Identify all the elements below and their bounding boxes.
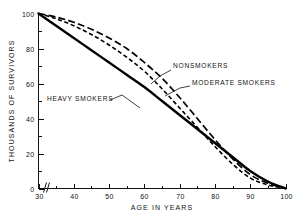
y-tick-label: 80 — [26, 46, 34, 53]
x-axis-ticks — [40, 184, 287, 189]
y-axis-title: THOUSANDS OF SURVIVORS — [8, 40, 15, 163]
y-tick-label: 60 — [26, 81, 34, 88]
x-tick-label: 100 — [280, 193, 293, 200]
survivorship-chart: 020406080100 30405060708090100 AGE IN YE… — [0, 0, 299, 224]
y-tick-label: 0 — [30, 186, 34, 193]
y-tick-label: 100 — [22, 11, 35, 18]
series-label-moderate-smokers: MODERATE SMOKERS — [192, 79, 276, 86]
y-tick-label: 20 — [26, 151, 34, 158]
leader-line-nonsmokers — [151, 70, 171, 84]
x-axis-tick-labels: 30405060708090100 — [35, 193, 292, 200]
chart-canvas: 020406080100 30405060708090100 AGE IN YE… — [0, 0, 299, 224]
y-tick-label: 40 — [26, 116, 34, 123]
x-tick-label: 60 — [140, 193, 148, 200]
series-label-nonsmokers: NONSMOKERS — [173, 62, 228, 69]
x-tick-label: 50 — [105, 193, 113, 200]
y-axis-tick-labels: 020406080100 — [22, 11, 35, 193]
x-axis-title: AGE IN YEARS — [131, 204, 193, 211]
leader-line-heavy — [110, 95, 140, 108]
axis-break-mark — [44, 183, 50, 193]
y-axis-ticks — [39, 15, 44, 190]
x-tick-label: 30 — [35, 193, 43, 200]
series-label-heavy-smokers: HEAVY SMOKERS — [47, 95, 113, 102]
annotation-leader-lines — [110, 70, 190, 108]
x-tick-label: 80 — [211, 193, 219, 200]
x-tick-label: 40 — [70, 193, 78, 200]
x-tick-label: 70 — [176, 193, 184, 200]
x-tick-label: 90 — [246, 193, 254, 200]
